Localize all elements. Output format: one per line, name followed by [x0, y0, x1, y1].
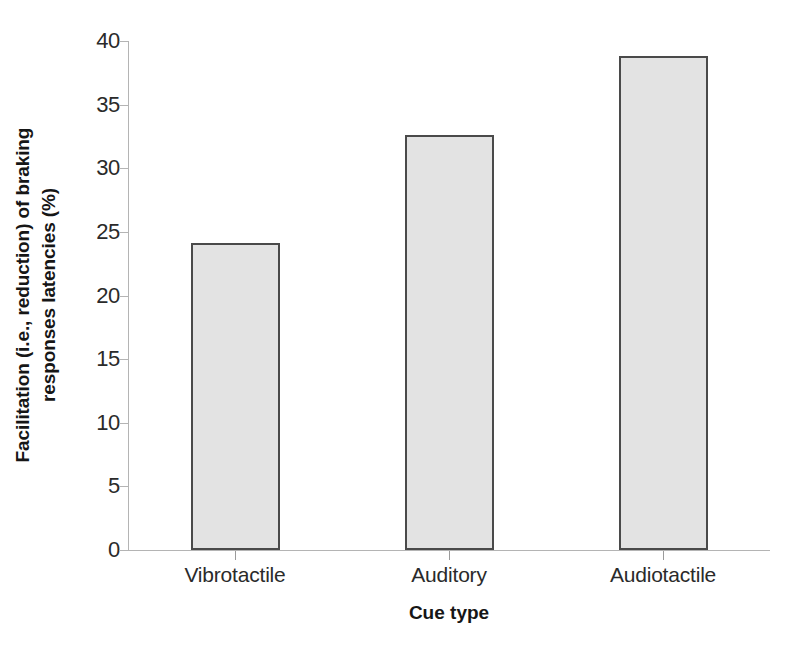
y-axis-line [128, 41, 129, 550]
page-bottom-artifact [0, 648, 789, 661]
y-axis-title-text: Facilitation (i.e., reduction) of brakin… [10, 128, 62, 463]
y-axis-tick-mark [119, 105, 128, 106]
y-axis-tick-label: 25 [66, 219, 120, 245]
y-axis-tick-label: 15 [66, 346, 120, 372]
y-axis-title-line-2: responses latencies (%) [36, 128, 62, 463]
x-axis-tick-labels: VibrotactileAuditoryAudiotactile [128, 563, 770, 595]
y-axis-tick-label: 0 [66, 537, 120, 563]
x-axis-tick-mark [449, 551, 450, 560]
plot-area [128, 41, 770, 550]
y-axis-tick-mark [119, 423, 128, 424]
x-axis-title: Cue type [128, 602, 770, 624]
x-axis-tick-label: Vibrotactile [184, 563, 285, 587]
y-axis-tick-label: 30 [66, 155, 120, 181]
y-axis-tick-labels: 0510152025303540 [62, 0, 120, 661]
y-axis-tick-mark [119, 41, 128, 42]
y-axis-tick-mark [119, 550, 128, 551]
y-axis-tick-label: 40 [66, 28, 120, 54]
x-axis-tick-mark [663, 551, 664, 560]
y-axis-tick-label: 35 [66, 92, 120, 118]
x-axis-tick-label: Audiotactile [610, 563, 716, 587]
x-axis-tick-mark [235, 551, 236, 560]
x-axis-tick-label: Auditory [411, 563, 486, 587]
y-axis-tick-label: 5 [66, 473, 120, 499]
y-axis-tick-mark [119, 168, 128, 169]
y-axis-tick-mark [119, 296, 128, 297]
y-axis-tick-label: 10 [66, 410, 120, 436]
y-axis-tick-label: 20 [66, 283, 120, 309]
y-axis-title-line-1: Facilitation (i.e., reduction) of brakin… [12, 128, 33, 463]
y-axis-tick-mark [119, 486, 128, 487]
bar-auditory [405, 135, 494, 550]
y-axis-tick-mark [119, 232, 128, 233]
bar-vibrotactile [191, 243, 280, 550]
bar-chart-figure: Facilitation (i.e., reduction) of brakin… [0, 0, 789, 661]
bar-audiotactile [619, 56, 708, 550]
y-axis-tick-mark [119, 359, 128, 360]
